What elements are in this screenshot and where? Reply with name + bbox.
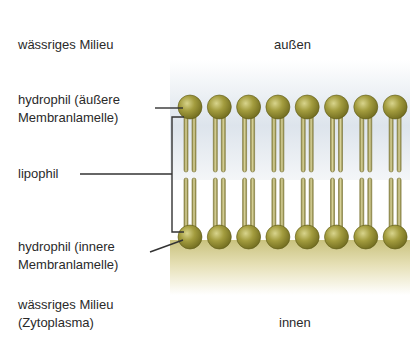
fatty-acid-tail (213, 114, 217, 172)
inner-medium-label-line1: wässriges Milieu (18, 296, 113, 313)
fatty-acid-tail (192, 178, 196, 232)
fatty-acid-tail (389, 178, 393, 232)
phosphate-head-icon (295, 95, 319, 119)
fatty-acid-tail (331, 178, 335, 232)
phosphate-head-icon (383, 95, 407, 119)
phosphate-head-icon (266, 225, 290, 249)
inner-phospholipid (325, 178, 349, 249)
fatty-acid-tail (339, 114, 343, 172)
inner-leaflet (178, 178, 407, 249)
fatty-acid-tail (251, 114, 255, 172)
outer-medium-region (170, 60, 410, 180)
fatty-acid-tail (368, 178, 372, 232)
phosphate-head-icon (207, 95, 231, 119)
fatty-acid-tail (272, 114, 276, 172)
fatty-acid-tail (280, 114, 284, 172)
inner-phospholipid (237, 178, 261, 249)
fatty-acid-tail (280, 178, 284, 232)
inner-phospholipid (266, 178, 290, 249)
inner-hydrophil-label-line1: hydrophil (innere (18, 238, 115, 255)
fatty-acid-tail (243, 178, 247, 232)
inner-medium-label-line2: (Zytoplasma) (18, 314, 94, 331)
phosphate-head-icon (295, 225, 319, 249)
phosphate-head-icon (325, 225, 349, 249)
phosphate-head-icon (354, 95, 378, 119)
inside-label: innen (279, 314, 311, 331)
inner-phospholipid (383, 178, 407, 249)
inner-hydrophil-label-line2: Membranlamelle) (18, 256, 118, 273)
fatty-acid-tail (251, 178, 255, 232)
fatty-acid-tail (309, 114, 313, 172)
phosphate-head-icon (178, 95, 202, 119)
fatty-acid-tail (331, 114, 335, 172)
outer-hydrophil-label-line1: hydrophil (äußere (18, 91, 120, 108)
phosphate-head-icon (237, 95, 261, 119)
fatty-acid-tail (213, 178, 217, 232)
fatty-acid-tail (368, 114, 372, 172)
fatty-acid-tail (389, 114, 393, 172)
phosphate-head-icon (325, 95, 349, 119)
fatty-acid-tail (397, 178, 401, 232)
outside-label: außen (274, 36, 311, 53)
leader-lines (80, 108, 184, 252)
fatty-acid-tail (221, 178, 225, 232)
lipophil-label: lipophil (18, 165, 58, 182)
inner-phospholipid (178, 178, 202, 249)
inner-phospholipid (207, 178, 231, 249)
phosphate-head-icon (354, 225, 378, 249)
fatty-acid-tail (192, 114, 196, 172)
phosphate-head-icon (178, 225, 202, 249)
outer-medium-label: wässriges Milieu (18, 36, 113, 53)
fatty-acid-tail (360, 114, 364, 172)
fatty-acid-tail (301, 178, 305, 232)
fatty-acid-tail (360, 178, 364, 232)
fatty-acid-tail (301, 114, 305, 172)
fatty-acid-tail (339, 178, 343, 232)
fatty-acid-tail (221, 114, 225, 172)
inner-phospholipid (354, 178, 378, 249)
phosphate-head-icon (207, 225, 231, 249)
fatty-acid-tail (184, 178, 188, 232)
fatty-acid-tail (184, 114, 188, 172)
fatty-acid-tail (397, 114, 401, 172)
outer-hydrophil-label-line2: Membranlamelle) (18, 109, 118, 126)
inner-medium-region (170, 240, 410, 295)
phosphate-head-icon (383, 225, 407, 249)
fatty-acid-tail (272, 178, 276, 232)
fatty-acid-tail (243, 114, 247, 172)
fatty-acid-tail (309, 178, 313, 232)
phosphate-head-icon (266, 95, 290, 119)
phosphate-head-icon (237, 225, 261, 249)
inner-phospholipid (295, 178, 319, 249)
